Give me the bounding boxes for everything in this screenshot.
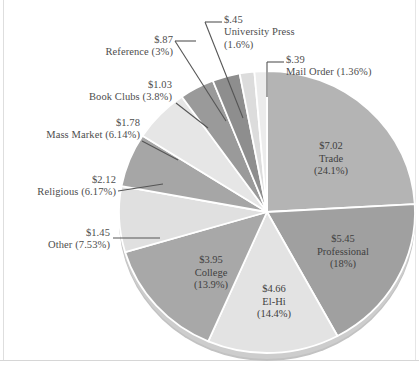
label-reference: $.87 Reference (3%) xyxy=(18,34,173,59)
label-elhi-percent: (14.4%) xyxy=(235,308,313,321)
label-mass-market: $1.78 Mass Market (6.14%) xyxy=(2,117,140,142)
label-mass-market-name-percent: Mass Market (6.14%) xyxy=(2,129,140,141)
label-trade-percent: (24.1%) xyxy=(291,165,371,178)
label-other: $1.45 Other (7.53%) xyxy=(2,227,110,252)
label-religious-value: $2.12 xyxy=(2,174,116,186)
label-elhi-name: El-Hi xyxy=(235,296,313,309)
label-mass-market-value: $1.78 xyxy=(2,117,140,129)
label-professional-value: $5.45 xyxy=(294,233,392,246)
label-university-press-value: $.45 xyxy=(224,14,295,26)
label-trade-value: $7.02 xyxy=(291,140,371,153)
label-trade-name: Trade xyxy=(291,153,371,166)
label-college-value: $3.95 xyxy=(170,254,252,267)
label-university-press-name: University Press xyxy=(224,26,295,38)
label-mail-order-value: $.39 xyxy=(286,54,371,66)
label-professional-name: Professional xyxy=(294,246,392,259)
label-professional: $5.45 Professional (18%) xyxy=(294,233,392,271)
label-professional-percent: (18%) xyxy=(294,258,392,271)
label-book-clubs-name-percent: Book Clubs (3.8%) xyxy=(10,91,172,103)
label-book-clubs-value: $1.03 xyxy=(10,79,172,91)
label-religious-name-percent: Religious (6.17%) xyxy=(2,186,116,198)
label-trade: $7.02 Trade (24.1%) xyxy=(291,140,371,178)
label-college-percent: (13.9%) xyxy=(170,279,252,292)
label-university-press-percent: (1.6%) xyxy=(224,39,295,51)
label-college-name: College xyxy=(170,267,252,280)
label-mail-order: $.39 Mail Order (1.36%) xyxy=(286,54,371,79)
label-college: $3.95 College (13.9%) xyxy=(170,254,252,292)
label-university-press: $.45 University Press (1.6%) xyxy=(224,14,295,51)
label-other-name-percent: Other (7.53%) xyxy=(2,239,110,251)
label-other-value: $1.45 xyxy=(2,227,110,239)
chart-page: $.45 University Press (1.6%) $.87 Refere… xyxy=(0,0,419,371)
label-mail-order-name-percent: Mail Order (1.36%) xyxy=(286,66,371,78)
label-religious: $2.12 Religious (6.17%) xyxy=(2,174,116,199)
label-reference-value: $.87 xyxy=(18,34,173,46)
label-reference-name-percent: Reference (3%) xyxy=(18,46,173,58)
label-book-clubs: $1.03 Book Clubs (3.8%) xyxy=(10,79,172,104)
